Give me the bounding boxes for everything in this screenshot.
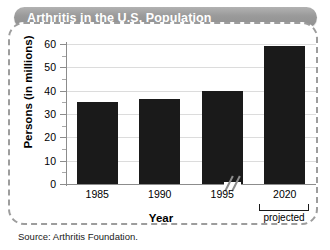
projected-bracket	[259, 204, 309, 211]
bars-container	[66, 44, 316, 184]
x-axis-line	[66, 184, 316, 185]
bar	[264, 46, 305, 184]
bar	[77, 102, 118, 184]
bar	[202, 91, 243, 184]
chart-plot-wrapper: 0102030405060 1985199019952020 projected…	[0, 22, 330, 227]
source-note: Source: Arthritis Foundation.	[18, 231, 138, 242]
x-tick-label: 1995	[192, 188, 252, 200]
x-axis-title: Year	[66, 212, 256, 224]
x-tick-label: 2020	[255, 188, 315, 200]
y-axis-title: Persons (in millions)	[22, 22, 34, 162]
x-tick-label: 1990	[130, 188, 190, 200]
projected-label: projected	[254, 212, 314, 223]
x-tick-label: 1985	[67, 188, 127, 200]
bar	[139, 99, 180, 184]
y-tick-label: 0	[16, 178, 56, 190]
